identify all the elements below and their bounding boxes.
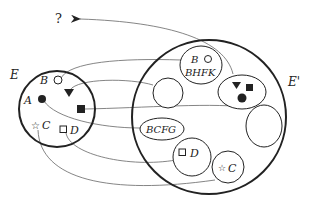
open-circle-icon xyxy=(205,56,212,63)
element-b-label: B xyxy=(39,74,48,87)
filled-square-icon xyxy=(77,105,85,113)
subset-bhfk-label: BHFK xyxy=(184,67,216,78)
filled-circle-icon xyxy=(238,94,247,103)
filled-triangle-icon xyxy=(64,89,74,97)
subset-empty-large xyxy=(246,105,282,147)
curve-b-to-bhfk xyxy=(61,60,181,78)
subset-bhfk xyxy=(180,46,222,84)
filled-square-icon xyxy=(246,84,253,91)
subset-c-label: C xyxy=(228,162,237,175)
subset-bhfk-top-label: B xyxy=(190,54,198,65)
open-square-icon xyxy=(179,149,186,156)
element-c-label: C xyxy=(42,119,51,132)
subset-d-label: D xyxy=(189,147,199,160)
question-mark: ? xyxy=(55,11,62,26)
diagram-canvas: E B A ☆ C D ? E' B BHFK BCFG D ☆ C xyxy=(0,0,310,206)
element-d-label: D xyxy=(69,124,79,137)
filled-circle-icon xyxy=(38,95,46,103)
set-mapping-diagram: E B A ☆ C D ? E' B BHFK BCFG D ☆ C xyxy=(0,0,310,206)
open-circle-icon xyxy=(54,76,62,84)
subset-bcfg-label: BCFG xyxy=(145,124,176,135)
open-star-icon: ☆ xyxy=(31,120,40,131)
set-e-prime-label: E' xyxy=(287,75,300,89)
subset-empty-small xyxy=(153,78,183,108)
open-star-icon: ☆ xyxy=(218,163,226,173)
set-e-label: E xyxy=(9,68,19,82)
open-square-icon xyxy=(60,126,67,133)
element-a-label: A xyxy=(23,94,32,107)
subset-triangle-square-dot xyxy=(218,75,266,109)
